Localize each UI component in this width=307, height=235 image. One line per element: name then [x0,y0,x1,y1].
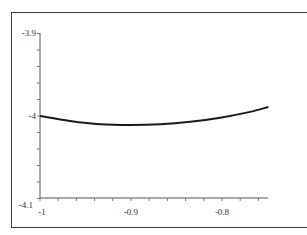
x-tick-label-right: -0.8 [215,207,230,217]
y-tick-label-mid: -4 [29,111,37,121]
y-tick-label-top: -3.9 [22,28,37,38]
y-tick-label-bottom: -4.1 [19,200,33,210]
x-tick-label-mid: -0.9 [124,207,139,217]
axes [37,33,268,201]
data-line [40,107,268,125]
line-chart: -3.9 -4 -4.1 -1 -0.9 -0.8 [0,0,307,235]
x-tick-label-left: -1 [38,207,46,217]
